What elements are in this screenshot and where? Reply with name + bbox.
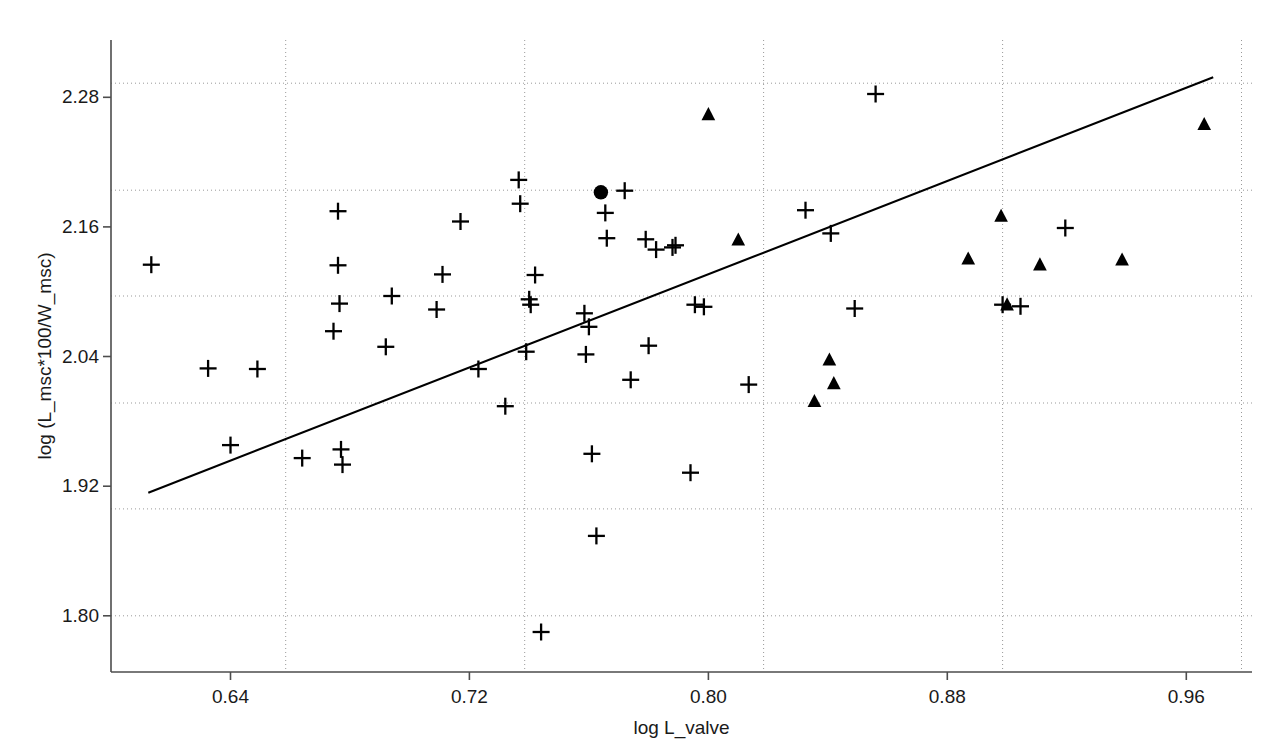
x-tick-label: 0.96 (1168, 686, 1205, 708)
data-point-cross (497, 398, 514, 415)
data-point-cross (143, 256, 160, 273)
data-point-triangle (1197, 117, 1211, 130)
data-point-triangle (1033, 257, 1047, 270)
data-point-cross (640, 337, 657, 354)
y-tick-label: 2.28 (43, 86, 99, 108)
data-point-cross (1012, 298, 1029, 315)
data-point-cross (822, 225, 839, 242)
data-point-cross (330, 257, 347, 274)
x-tick-label: 0.80 (690, 686, 727, 708)
data-point-triangle (823, 352, 837, 365)
data-point-triangle (827, 376, 841, 389)
data-point-cross (637, 231, 654, 248)
data-point-cross (470, 361, 487, 378)
plot-canvas (0, 0, 1283, 751)
data-point-cross (518, 343, 535, 360)
data-point-cross (846, 300, 863, 317)
x-tick-label: 0.88 (929, 686, 966, 708)
data-point-cross (580, 318, 597, 335)
data-point-cross (588, 527, 605, 544)
x-tick-label: 0.72 (451, 686, 488, 708)
data-point-triangle (961, 251, 975, 264)
data-point-cross (616, 182, 633, 199)
data-point-cross (797, 202, 814, 219)
data-point-cross (512, 195, 529, 212)
data-point-cross (583, 445, 600, 462)
data-point-circle (594, 185, 608, 199)
data-point-triangle (808, 394, 822, 407)
y-tick-label: 2.16 (43, 216, 99, 238)
data-point-cross (686, 296, 703, 313)
data-point-cross (533, 624, 550, 641)
regression-line (148, 77, 1213, 492)
gridlines (111, 40, 1252, 672)
axis-lines (111, 40, 1252, 672)
data-point-cross (428, 301, 445, 318)
data-point-cross (325, 323, 342, 340)
data-point-triangle (731, 233, 745, 246)
y-tick-label: 1.80 (43, 605, 99, 627)
data-point-cross (648, 241, 665, 258)
data-point-cross (527, 267, 544, 284)
data-series-triangle (702, 107, 1212, 407)
data-point-cross (200, 360, 217, 377)
data-point-cross (222, 437, 239, 454)
data-series-circle (594, 185, 608, 199)
data-point-cross (667, 237, 684, 254)
data-point-cross (740, 376, 757, 393)
data-point-cross (249, 361, 266, 378)
data-point-cross (622, 371, 639, 388)
data-point-cross (597, 204, 614, 221)
data-point-cross (434, 266, 451, 283)
y-axis-title: log (L_msc*100/W_msc) (34, 253, 56, 460)
data-point-cross (333, 441, 350, 458)
data-point-cross (452, 213, 469, 230)
axis-ticks (103, 97, 1186, 680)
y-tick-label: 1.92 (43, 475, 99, 497)
data-point-cross (682, 464, 699, 481)
data-point-cross (598, 230, 615, 247)
data-point-cross (510, 171, 527, 188)
data-point-triangle (994, 209, 1008, 222)
x-axis-title: log L_valve (633, 717, 729, 739)
data-point-cross (664, 239, 681, 256)
data-point-cross (695, 298, 712, 315)
data-point-triangle (1115, 252, 1129, 265)
scatter-plot-figure: 1.801.922.042.162.28 0.640.720.800.880.9… (0, 0, 1283, 751)
data-point-cross (1057, 220, 1074, 237)
regression-line-path (148, 77, 1213, 492)
data-point-cross (577, 346, 594, 363)
data-point-cross (331, 295, 348, 312)
data-point-cross (377, 338, 394, 355)
data-point-cross (334, 456, 351, 473)
data-point-cross (294, 450, 311, 467)
data-point-triangle (702, 107, 716, 120)
data-point-cross (330, 203, 347, 220)
x-tick-label: 0.64 (212, 686, 249, 708)
data-series-cross (143, 86, 1074, 641)
data-point-cross (383, 288, 400, 305)
data-point-cross (867, 86, 884, 103)
